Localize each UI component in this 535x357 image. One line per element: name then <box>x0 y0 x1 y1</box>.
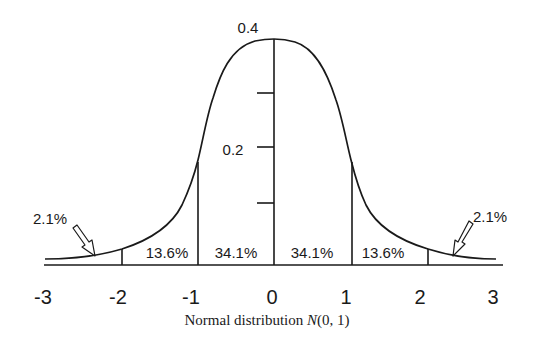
y-label-0.4: 0.4 <box>238 19 259 36</box>
x-tick-label-2: 2 <box>414 286 425 308</box>
pct-label-right-tail: 2.1% <box>473 208 507 225</box>
arrow-right-tail-icon <box>453 221 473 256</box>
normal-distribution-chart: 0.4 0.2 2.1% 13.6% 34.1% 34.1% 13.6% 2.1… <box>0 0 535 357</box>
caption-suffix: (0, 1) <box>317 312 350 329</box>
x-tick-label-minus-2: -2 <box>109 286 127 308</box>
density-curve <box>45 39 496 259</box>
pct-label-minus-2-to-minus-1: 13.6% <box>146 244 189 261</box>
pct-label-1-to-2: 13.6% <box>362 244 405 261</box>
pct-label-minus-1-to-0: 34.1% <box>215 244 258 261</box>
y-label-0.2: 0.2 <box>223 141 244 158</box>
pct-label-0-to-1: 34.1% <box>291 244 334 261</box>
chart-caption: Normal distribution N(0, 1) <box>184 312 349 329</box>
x-tick-label-minus-1: -1 <box>182 286 200 308</box>
caption-prefix: Normal distribution <box>184 312 307 328</box>
x-tick-label-3: 3 <box>487 286 498 308</box>
x-tick-label-minus-3: -3 <box>34 286 52 308</box>
x-tick-label-1: 1 <box>340 286 351 308</box>
x-tick-label-0: 0 <box>266 286 277 308</box>
arrow-left-tail-icon <box>73 225 95 256</box>
pct-label-left-tail: 2.1% <box>33 210 67 227</box>
